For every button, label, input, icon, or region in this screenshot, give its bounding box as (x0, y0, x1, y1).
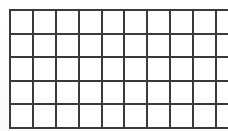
grid-row (10, 81, 228, 105)
grid-cell (147, 10, 170, 34)
grid-cell (170, 81, 193, 105)
grid-cell (79, 34, 102, 58)
grid-cell (33, 57, 56, 81)
grid-cell (124, 10, 147, 34)
grid-cell (147, 81, 170, 105)
grid-cell (56, 10, 79, 34)
grid-cell (216, 34, 228, 58)
grid-cell (79, 10, 102, 34)
grid-cell (56, 57, 79, 81)
grid-cell (124, 104, 147, 128)
grid-cell (102, 104, 125, 128)
grid-cell (10, 10, 33, 34)
grid-cell (193, 104, 216, 128)
grid-cell (147, 57, 170, 81)
grid-body (10, 10, 228, 128)
grid-cell (102, 10, 125, 34)
grid-cell (79, 57, 102, 81)
grid-cell (33, 104, 56, 128)
grid-cell (33, 34, 56, 58)
grid-cell (33, 10, 56, 34)
grid-row (10, 104, 228, 128)
grid-cell (124, 81, 147, 105)
grid-cell (193, 57, 216, 81)
grid-cell (147, 34, 170, 58)
grid-cell (10, 57, 33, 81)
grid-cell (33, 81, 56, 105)
grid-cell (124, 57, 147, 81)
grid (9, 9, 228, 129)
grid-cell (170, 104, 193, 128)
grid-cell (102, 57, 125, 81)
grid-row (10, 34, 228, 58)
grid-cell (124, 34, 147, 58)
grid-cell (79, 104, 102, 128)
grid-cell (216, 10, 228, 34)
grid-cell (170, 57, 193, 81)
grid-cell (56, 104, 79, 128)
grid-cell (10, 104, 33, 128)
grid-cell (10, 34, 33, 58)
grid-cell (193, 10, 216, 34)
grid-cell (193, 81, 216, 105)
grid-cell (193, 34, 216, 58)
grid-cell (56, 81, 79, 105)
grid-cell (216, 57, 228, 81)
grid-row (10, 10, 228, 34)
grid-cell (102, 34, 125, 58)
grid-cell (56, 34, 79, 58)
grid-cell (10, 81, 33, 105)
grid-cell (170, 10, 193, 34)
grid-cell (102, 81, 125, 105)
grid-cell (79, 81, 102, 105)
grid-cell (216, 81, 228, 105)
grid-cell (216, 104, 228, 128)
grid-cell (170, 34, 193, 58)
grid-row (10, 57, 228, 81)
grid-cell (147, 104, 170, 128)
figure-canvas (0, 0, 228, 131)
